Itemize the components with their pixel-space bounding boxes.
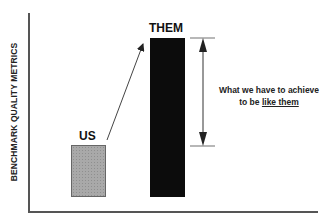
- arrows-layer: [0, 0, 328, 224]
- growth-arrow-icon: [107, 44, 143, 140]
- gap-annotation-line2: to be like them: [213, 96, 325, 108]
- gap-bracket-icon: [190, 38, 215, 146]
- gap-annotation-line1: What we have to achieve: [213, 84, 325, 96]
- gap-annotation-underlined: like them: [262, 97, 299, 107]
- gap-annotation-prefix: to be: [239, 97, 262, 107]
- gap-annotation: What we have to achieve to be like them: [213, 84, 325, 108]
